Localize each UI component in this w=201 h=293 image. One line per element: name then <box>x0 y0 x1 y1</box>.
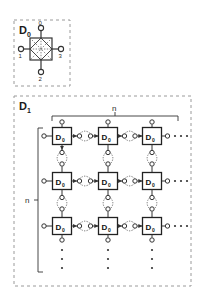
cell-label-subscript: 0 <box>62 182 65 188</box>
column-ellipsis <box>151 249 153 269</box>
cell-label-subscript: 0 <box>108 137 111 143</box>
grid-row: D 0 D 0 <box>42 173 188 190</box>
link-node[interactable] <box>77 224 81 228</box>
link-node[interactable] <box>150 150 154 154</box>
grid-cell[interactable]: D 0 <box>99 218 118 243</box>
left-bracket <box>34 128 43 272</box>
row-input-node[interactable] <box>42 134 46 138</box>
cell-label-subscript: 0 <box>152 182 155 188</box>
block-d1-label: D <box>19 100 27 112</box>
cell-label: D <box>146 223 152 232</box>
row-output-node[interactable] <box>165 134 169 138</box>
link-node[interactable] <box>60 162 64 166</box>
row-output-node[interactable] <box>165 179 169 183</box>
vertical-link <box>103 190 113 218</box>
cell-bottom-node[interactable] <box>150 238 154 242</box>
vertical-link <box>147 190 157 218</box>
port-3-node[interactable] <box>58 46 63 51</box>
cell-label: D <box>146 133 152 142</box>
horizontal-link <box>72 176 99 186</box>
diagram-svg: D 0 0 1 2 3 D <box>0 0 201 293</box>
cell-label-subscript: 0 <box>152 137 155 143</box>
vertical-link <box>57 145 67 173</box>
vertical-link <box>57 190 67 218</box>
port-2-label: 2 <box>39 76 43 82</box>
grid-cell[interactable]: D 0 <box>143 120 162 145</box>
link-node[interactable] <box>122 224 126 228</box>
link-node[interactable] <box>106 207 110 211</box>
link-node[interactable] <box>122 134 126 138</box>
port-3-label: 3 <box>59 53 63 59</box>
grid-cell[interactable]: D 0 <box>53 173 72 190</box>
port-2-node[interactable] <box>38 69 43 74</box>
link-node[interactable] <box>150 162 154 166</box>
horizontal-link <box>72 131 99 141</box>
grid-cell[interactable]: D 0 <box>143 173 162 190</box>
row-output-node[interactable] <box>165 224 169 228</box>
link-node[interactable] <box>60 207 64 211</box>
link-node[interactable] <box>60 150 64 154</box>
top-bracket <box>52 112 178 121</box>
cell-label-subscript: 0 <box>62 227 65 233</box>
block-d1-label-subscript: 1 <box>27 107 31 114</box>
horizontal-link <box>72 221 99 231</box>
port-1-node[interactable] <box>18 46 23 51</box>
grid-cell[interactable]: D 0 <box>53 218 72 243</box>
cell-label: D <box>56 178 62 187</box>
link-node[interactable] <box>133 134 137 138</box>
top-bracket-label: n <box>112 104 116 113</box>
row-input-node[interactable] <box>42 224 46 228</box>
link-node[interactable] <box>88 179 92 183</box>
grid-row: D 0 D 0 <box>42 120 188 145</box>
horizontal-link <box>118 131 143 141</box>
link-node[interactable] <box>106 150 110 154</box>
block-d0-label-subscript: 0 <box>27 31 31 38</box>
cell-label: D <box>102 178 108 187</box>
block-d1-frame <box>14 96 191 286</box>
cell-bottom-node[interactable] <box>60 238 64 242</box>
cell-label-subscript: 0 <box>152 227 155 233</box>
cell-label-subscript: 0 <box>108 227 111 233</box>
cell-label-subscript: 0 <box>108 182 111 188</box>
link-node[interactable] <box>122 179 126 183</box>
link-node[interactable] <box>88 134 92 138</box>
grid-row: D 0 D 0 <box>42 218 188 243</box>
port-1-label: 1 <box>19 53 23 59</box>
cell-bottom-node[interactable] <box>106 238 110 242</box>
port-0-node[interactable] <box>38 25 43 30</box>
block-d0-label: D <box>19 24 27 36</box>
link-node[interactable] <box>60 195 64 199</box>
link-node[interactable] <box>106 162 110 166</box>
link-node[interactable] <box>133 224 137 228</box>
cell-label: D <box>56 133 62 142</box>
grid-cell[interactable]: D 0 <box>99 120 118 145</box>
cell-label: D <box>102 223 108 232</box>
cell-label-subscript: 0 <box>62 137 65 143</box>
grid-cell[interactable]: D 0 <box>53 120 72 145</box>
vertical-link <box>103 145 113 173</box>
link-node[interactable] <box>106 195 110 199</box>
row-ellipsis <box>174 225 188 227</box>
horizontal-link <box>118 176 143 186</box>
horizontal-link <box>118 221 143 231</box>
link-node[interactable] <box>77 179 81 183</box>
link-node[interactable] <box>150 207 154 211</box>
vertical-link <box>147 145 157 173</box>
link-node[interactable] <box>150 195 154 199</box>
column-ellipsis <box>107 249 109 269</box>
cell-top-node[interactable] <box>106 120 110 124</box>
link-node[interactable] <box>77 134 81 138</box>
figure-canvas: D 0 0 1 2 3 D <box>0 0 201 293</box>
row-ellipsis <box>174 180 188 182</box>
cell-label: D <box>102 133 108 142</box>
cell-label: D <box>146 178 152 187</box>
row-input-node[interactable] <box>42 179 46 183</box>
cell-top-node[interactable] <box>150 120 154 124</box>
link-node[interactable] <box>88 224 92 228</box>
left-bracket-label: n <box>25 196 29 205</box>
grid-cell[interactable]: D 0 <box>99 173 118 190</box>
cell-top-node[interactable] <box>60 120 64 124</box>
grid-cell[interactable]: D 0 <box>143 218 162 243</box>
block-d1: D 1 n n <box>14 96 191 286</box>
link-node[interactable] <box>133 179 137 183</box>
